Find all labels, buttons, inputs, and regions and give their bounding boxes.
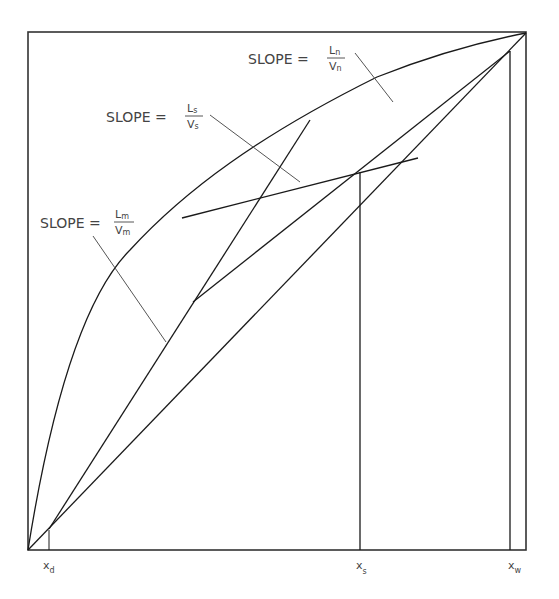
svg-text:Ls: Ls [187, 102, 197, 115]
svg-text:Vm: Vm [115, 224, 131, 237]
leader-slope-m [93, 236, 166, 342]
tick-label-xs: xs [356, 559, 367, 576]
svg-text:Lm: Lm [115, 208, 129, 221]
leader-slope-s [210, 115, 300, 182]
label-slope-s: SLOPE = Ls Vs [106, 102, 203, 131]
svg-text:SLOPE =: SLOPE = [106, 109, 167, 125]
mccabe-thiele-diagram: SLOPE = Ln Vn SLOPE = Ls Vs SLOPE = Lm V… [0, 0, 559, 599]
diagonal-line [28, 33, 526, 550]
svg-text:Vn: Vn [329, 60, 342, 73]
svg-text:Ln: Ln [329, 44, 340, 57]
svg-text:SLOPE =: SLOPE = [248, 51, 309, 67]
svg-text:xw: xw [508, 559, 522, 575]
tick-label-xd: xd [43, 559, 55, 575]
label-slope-m: SLOPE = Lm Vm [40, 208, 134, 237]
tick-label-xw: xw [508, 559, 522, 575]
leader-slope-n [355, 53, 393, 102]
operating-line-n [193, 51, 510, 302]
label-slope-n: SLOPE = Ln Vn [248, 44, 345, 73]
operating-line-m [49, 120, 310, 529]
svg-text:Vs: Vs [187, 118, 199, 131]
svg-text:xd: xd [43, 559, 55, 575]
operating-line-s [182, 158, 418, 218]
svg-text:xs: xs [356, 559, 367, 576]
svg-text:SLOPE =: SLOPE = [40, 215, 101, 231]
